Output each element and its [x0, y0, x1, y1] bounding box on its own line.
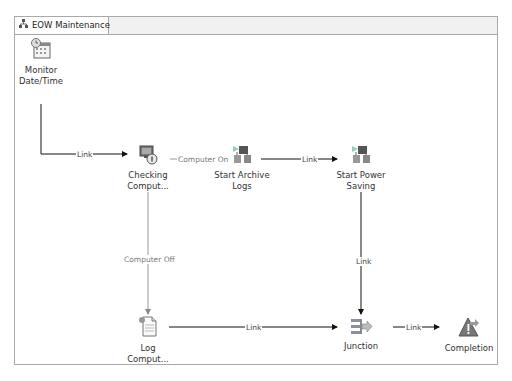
link-lines — [15, 34, 499, 366]
link-label[interactable]: Link — [355, 257, 372, 266]
activity-start-archive-logs[interactable]: Start Archive Logs — [207, 143, 277, 192]
node-label: Start Archive — [207, 170, 277, 181]
activity-completion[interactable]: Completion — [434, 316, 504, 354]
workflow-icon — [19, 17, 28, 34]
link-label[interactable]: Link — [245, 323, 262, 332]
completion-icon — [434, 316, 504, 341]
node-label: Comput... — [113, 354, 183, 365]
tab-eow-maintenance[interactable]: EOW Maintenance — [15, 17, 109, 34]
computer-check-icon — [113, 143, 183, 168]
node-label: Log — [113, 343, 183, 354]
activity-checking-computer[interactable]: Checking Comput... — [113, 143, 183, 192]
node-label: Date/Time — [6, 76, 76, 87]
run-program-icon — [207, 143, 277, 168]
workflow-designer: EOW Maintenance — [14, 16, 498, 365]
activity-monitor-date-time[interactable]: Monitor Date/Time — [6, 38, 76, 87]
node-label: Saving — [326, 181, 396, 192]
junction-icon — [326, 316, 396, 339]
run-program-icon — [326, 143, 396, 168]
link-label[interactable]: Link — [301, 155, 318, 164]
tab-strip: EOW Maintenance — [15, 17, 497, 35]
tab-title: EOW Maintenance — [32, 20, 110, 30]
calendar-clock-icon — [6, 38, 76, 63]
node-label: Completion — [434, 343, 504, 354]
activity-junction[interactable]: Junction — [326, 316, 396, 352]
link-label[interactable]: Link — [405, 323, 422, 332]
node-label: Start Power — [326, 170, 396, 181]
log-document-icon — [113, 314, 183, 341]
workflow-canvas[interactable]: Link Computer On Link Computer Off Link … — [15, 34, 497, 364]
link-label[interactable]: Link — [76, 150, 93, 159]
activity-log-computer[interactable]: Log Comput... — [113, 314, 183, 365]
node-label: Checking — [113, 170, 183, 181]
link-label[interactable]: Computer Off — [123, 255, 176, 264]
node-label: Monitor — [6, 65, 76, 76]
node-label: Comput... — [113, 181, 183, 192]
node-label: Logs — [207, 181, 277, 192]
activity-start-power-saving[interactable]: Start Power Saving — [326, 143, 396, 192]
node-label: Junction — [326, 341, 396, 352]
